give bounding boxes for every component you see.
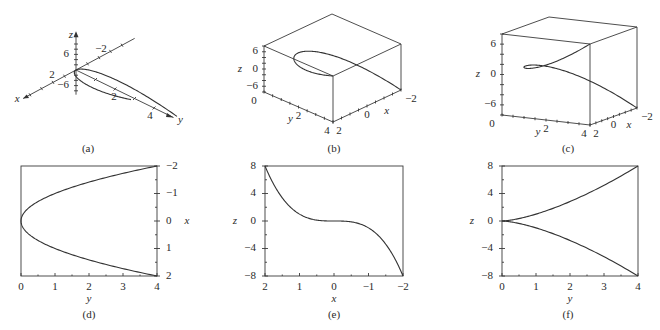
x-tick-label: 3 (120, 280, 126, 292)
y-tick-label: 4 (147, 109, 153, 121)
x-tick-label: 4 (154, 280, 160, 292)
caption-c: (c) (562, 142, 575, 155)
series-line-0 (502, 166, 638, 221)
x-axis-arrow-icon (23, 95, 29, 99)
x-tick-label: −2 (95, 42, 107, 54)
caption-d: (d) (83, 308, 96, 321)
x-axis-label: x (625, 118, 631, 130)
y-tick-label: 0 (251, 214, 257, 226)
y-tick-label: −8 (481, 269, 493, 281)
box-edge (549, 17, 637, 27)
x-tick-label: 1 (297, 280, 303, 292)
y-tick-label: 2 (166, 269, 172, 281)
y-tick-label: 4 (251, 186, 257, 198)
z-tick-label: 6 (491, 37, 497, 49)
z-tick-label: 6 (64, 47, 70, 59)
y-tick-label: 1 (166, 241, 172, 253)
x-tick-label: 1 (533, 280, 539, 292)
y-tick-label: −1 (166, 186, 178, 198)
box-edge (502, 17, 549, 34)
y-tick-label: 8 (251, 159, 257, 171)
z-axis-arrow-icon (74, 31, 79, 37)
z-axis-label: z (475, 67, 481, 79)
x-tick-label: −2 (405, 92, 417, 104)
x-axis-label: x (331, 292, 337, 304)
z-tick-label: −6 (484, 97, 496, 109)
caption-f: (f) (563, 308, 574, 321)
x-axis-label: x (383, 104, 389, 116)
y-tick-label: −4 (481, 241, 493, 253)
x-tick-label: 4 (635, 280, 641, 292)
figure-canvas: (a) (b) (c) (d) (e) (f) xyz6−62−224 60−6… (0, 0, 660, 330)
y-tick-label: −8 (244, 269, 256, 281)
y-tick-label: 4 (581, 127, 587, 139)
y-tick-label: −4 (244, 241, 256, 253)
x-tick-label: 0 (18, 280, 24, 292)
caption-a: (a) (82, 142, 95, 155)
y-tick-label: 0 (166, 214, 172, 226)
z-tick-label: 0 (253, 62, 259, 74)
x-axis-label: y (86, 292, 92, 304)
panel-a-3d-axes: xyz6−62−224 (14, 28, 183, 125)
y-axis-label: z (232, 214, 238, 226)
panel-f-plot: 01234y840−4−8z (469, 159, 641, 304)
x-axis-label: y (567, 292, 573, 304)
y-tick-label: 0 (488, 214, 494, 226)
y-axis-line (76, 70, 174, 118)
x-tick-label: 0 (331, 280, 337, 292)
y-axis-label: z (469, 214, 475, 226)
x-tick-label: −2 (397, 280, 409, 292)
z-axis-label: z (237, 62, 243, 74)
y-tick-label: 4 (324, 124, 330, 136)
x-tick-label: 2 (262, 280, 268, 292)
panel-d-plot: 01234y−2−1012x (18, 159, 189, 304)
curve-3d (74, 69, 177, 116)
x-tick-label: −2 (641, 110, 653, 122)
x-tick-label: 3 (601, 280, 607, 292)
y-tick (153, 107, 156, 110)
series-line-0 (265, 166, 403, 276)
x-tick-label: 1 (52, 280, 58, 292)
box-edge (332, 14, 401, 44)
y-axis-label: y (535, 125, 541, 137)
plot-frame (502, 166, 638, 276)
x-tick-label: 2 (86, 280, 92, 292)
x-tick-label: 2 (567, 280, 573, 292)
y-tick (133, 97, 136, 100)
caption-e: (e) (328, 308, 341, 321)
series-line-1 (502, 221, 638, 276)
z-tick-label: 6 (253, 44, 259, 56)
caption-b: (b) (328, 142, 341, 155)
curve-3d (294, 51, 401, 90)
box-edge (264, 46, 333, 76)
x-tick-label: 2 (336, 124, 342, 136)
x-axis-line (23, 38, 135, 98)
z-tick-label: −6 (57, 78, 69, 90)
series-line-0 (21, 166, 157, 276)
box-edge (264, 14, 332, 46)
x-tick-label: 0 (499, 280, 505, 292)
z-tick-label: −6 (246, 79, 258, 91)
z-axis-label: z (68, 28, 74, 40)
y-tick-label: 2 (543, 122, 549, 134)
y-axis-label: y (287, 112, 293, 124)
y-tick-label: 4 (488, 186, 494, 198)
x-tick-label: 0 (611, 118, 617, 130)
x-tick-label: 0 (364, 108, 370, 120)
y-tick-label: 8 (488, 159, 494, 171)
x-tick-label: 2 (593, 127, 599, 139)
curve-3d (524, 44, 637, 108)
x-tick-label: −1 (363, 280, 375, 292)
panel-b-3d-box: 60−6z024y20−2x (237, 14, 417, 136)
box-edge (333, 44, 401, 76)
y-tick-label: 0 (251, 94, 257, 106)
y-axis-label: x (184, 214, 190, 226)
y-tick-label: −2 (166, 159, 178, 171)
panel-c-3d-box: 60−6z024y20−2x (475, 17, 653, 139)
z-tick-label: 0 (491, 67, 497, 79)
box-edge (590, 27, 637, 44)
panel-e-plot: 210−1−2x840−4−8z (232, 159, 409, 304)
x-tick-label: 2 (49, 68, 55, 80)
x-axis-label: x (14, 92, 20, 104)
y-tick (94, 78, 97, 81)
